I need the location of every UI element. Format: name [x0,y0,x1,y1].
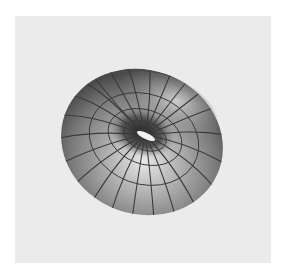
torus-body [40,46,243,237]
torus-rendering [0,0,284,275]
